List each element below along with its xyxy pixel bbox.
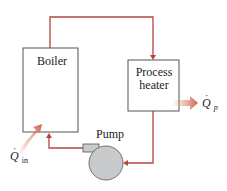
heat-in-subscript: in: [22, 156, 28, 165]
pump-icon: [83, 144, 123, 180]
process-heater-label-line1: Process: [136, 65, 173, 79]
boiler-label: Boiler: [37, 55, 67, 68]
heat-out-subscript: p: [214, 103, 218, 112]
cogeneration-diagram: [0, 0, 227, 191]
process-heater-label-line2: heater: [139, 78, 168, 92]
heat-in-label: Q · in: [10, 150, 28, 167]
heat-out-label: Q · p: [202, 97, 218, 114]
pump-label: Pump: [96, 128, 124, 141]
process-heater-label: Process heater: [135, 66, 173, 92]
